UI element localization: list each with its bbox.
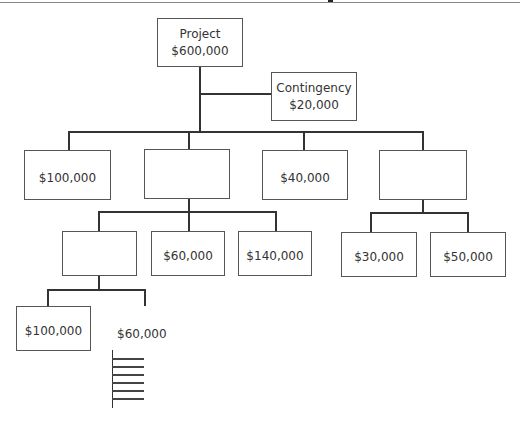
level2-box-3: $40,000	[262, 150, 348, 200]
connector-box4-drop-2	[467, 212, 469, 232]
connector-box2-drop-3	[275, 211, 277, 231]
top-divider	[0, 2, 520, 3]
level2-box-4	[379, 150, 467, 200]
level4-box-f-value: $100,000	[25, 323, 82, 340]
level2-box-3-value: $40,000	[280, 170, 330, 187]
continuation-tick-5	[112, 390, 144, 392]
connector-level2-drop-4	[422, 131, 424, 150]
connector-level2-drop-2	[188, 131, 190, 149]
connector-box2-drop-2	[188, 211, 190, 231]
level2-box-1-value: $100,000	[39, 170, 96, 187]
connector-contingency	[199, 93, 271, 95]
level2-box-2	[144, 149, 230, 199]
connector-level4-bar	[47, 289, 146, 291]
continuation-tick-4	[112, 382, 144, 384]
level3-box-c-value: $140,000	[246, 248, 303, 265]
level3-box-d-value: $30,000	[354, 249, 404, 266]
continuation-tick-1	[112, 358, 144, 360]
level3-box-c: $140,000	[238, 231, 312, 276]
project-root-box: Project $600,000	[157, 18, 243, 67]
level3-box-d: $30,000	[341, 232, 417, 277]
continuation-tick-2	[112, 366, 144, 368]
continuation-tick-3	[112, 374, 144, 376]
level3-box-a	[62, 231, 137, 276]
level3-box-e-value: $50,000	[443, 249, 493, 266]
level3-box-e: $50,000	[430, 232, 506, 277]
connector-level2-drop-1	[68, 131, 70, 150]
root-label: Project	[179, 26, 220, 43]
connector-level4-drop-2	[144, 289, 146, 306]
connector-box4-bar	[370, 212, 469, 214]
level2-box-1: $100,000	[24, 150, 111, 200]
level3-box-b-value: $60,000	[163, 248, 213, 265]
root-value: $600,000	[171, 43, 228, 60]
connector-level2-bar	[68, 131, 424, 133]
contingency-value: $20,000	[289, 97, 339, 114]
contingency-label: Contingency	[276, 80, 351, 97]
connector-root-trunk	[199, 67, 201, 133]
connector-box2-drop-1	[98, 211, 100, 231]
continuation-tick-6	[112, 398, 144, 400]
level3-box-b: $60,000	[151, 231, 225, 276]
level4-box-f: $100,000	[16, 306, 91, 351]
contingency-box: Contingency $20,000	[271, 72, 357, 121]
connector-box4-drop-1	[370, 212, 372, 232]
cut-off-glyph	[328, 0, 333, 2]
level4-unboxed-value: $60,000	[117, 327, 167, 341]
connector-level2-drop-3	[303, 131, 305, 150]
connector-level4-drop-1	[47, 289, 49, 306]
